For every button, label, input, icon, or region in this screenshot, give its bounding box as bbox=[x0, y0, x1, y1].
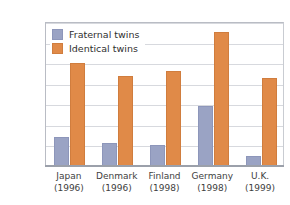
legend-swatch-icon bbox=[52, 29, 63, 40]
x-axis-category-year: (1998) bbox=[141, 182, 189, 194]
legend-item[interactable]: Fraternal twins bbox=[52, 27, 139, 41]
x-axis-label: Germany(1998) bbox=[188, 170, 236, 194]
bar bbox=[198, 106, 213, 166]
bar bbox=[262, 78, 277, 166]
bar bbox=[70, 63, 85, 166]
bar-group bbox=[189, 23, 237, 166]
bar bbox=[150, 145, 165, 166]
x-axis-category-name: Japan bbox=[45, 170, 93, 182]
x-axis-label: Denmark(1996) bbox=[93, 170, 141, 194]
x-axis-category-name: Germany bbox=[188, 170, 236, 182]
twin-concordance-bar-chart: 010203040506070% Japan(1996)Denmark(1996… bbox=[0, 0, 290, 205]
chart-legend: Fraternal twinsIdentical twins bbox=[50, 25, 145, 57]
legend-item[interactable]: Identical twins bbox=[52, 41, 139, 55]
x-axis-category-name: Denmark bbox=[93, 170, 141, 182]
x-axis-category-year: (1996) bbox=[45, 182, 93, 194]
x-axis-label: Finland(1998) bbox=[141, 170, 189, 194]
x-axis-category-year: (1996) bbox=[93, 182, 141, 194]
x-axis-category-name: Finland bbox=[141, 170, 189, 182]
bar-group bbox=[142, 23, 190, 166]
x-axis-category-year: (1999) bbox=[236, 182, 284, 194]
bar bbox=[246, 156, 261, 166]
bar bbox=[166, 71, 181, 166]
x-axis-category-year: (1998) bbox=[188, 182, 236, 194]
bar bbox=[214, 32, 229, 166]
legend-label: Fraternal twins bbox=[69, 29, 139, 40]
x-axis-label: U.K.(1999) bbox=[236, 170, 284, 194]
bar-group bbox=[237, 23, 285, 166]
legend-label: Identical twins bbox=[69, 43, 138, 54]
x-axis-category-name: U.K. bbox=[236, 170, 284, 182]
bar bbox=[102, 143, 117, 166]
x-axis-label: Japan(1996) bbox=[45, 170, 93, 194]
legend-swatch-icon bbox=[52, 43, 63, 54]
bar bbox=[54, 137, 69, 166]
bar bbox=[118, 76, 133, 167]
